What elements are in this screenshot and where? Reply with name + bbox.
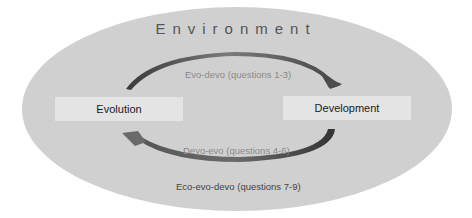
evolution-node: Evolution [55,97,183,121]
development-label: Development [315,102,380,114]
evo-devo-label: Evo-devo (questions 1-3) [185,69,291,80]
development-node: Development [283,96,411,120]
evolution-label: Evolution [96,103,141,115]
eco-evo-devo-label: Eco-evo-devo (questions 7-9) [176,181,301,192]
devo-evo-label: Devo-evo (questions 4-6) [183,145,290,156]
